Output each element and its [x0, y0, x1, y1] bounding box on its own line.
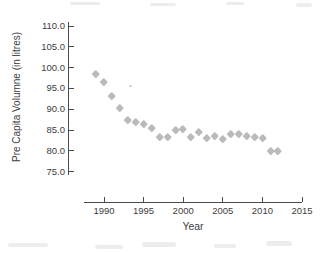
data-point-2000 [179, 125, 187, 133]
data-point-1996 [148, 124, 156, 132]
scatter-plot-figure: 110.0105.0100.095.090.085.080.075.0 1990… [0, 0, 327, 253]
scan-speck [129, 85, 132, 87]
x-tick-label: 1990 [86, 206, 122, 216]
x-tick-mark [104, 197, 105, 202]
x-tick-mark [222, 197, 223, 202]
scan-artifact [266, 241, 292, 246]
x-tick-mark [183, 197, 184, 202]
x-tick-label: 2010 [244, 206, 280, 216]
y-tick-label: 100.0 [28, 63, 65, 73]
y-tick-label: 105.0 [28, 42, 65, 52]
data-point-1993 [124, 116, 132, 124]
y-axis-line [68, 22, 69, 175]
x-tick-mark [262, 197, 263, 202]
x-tick-label: 2015 [284, 206, 320, 216]
y-tick-label: 95.0 [28, 83, 65, 93]
data-point-2001 [187, 133, 195, 141]
data-point-1992 [116, 104, 124, 112]
data-point-1990 [100, 78, 108, 86]
y-tick-mark [69, 26, 74, 27]
x-axis-title: Year [158, 220, 228, 232]
scan-artifact [95, 245, 123, 249]
x-tick-label: 1995 [126, 206, 162, 216]
data-point-2010 [259, 134, 267, 142]
data-point-2005 [219, 135, 227, 143]
data-point-1995 [140, 120, 148, 128]
data-point-2007 [235, 129, 243, 137]
scan-artifact [296, 3, 312, 7]
scan-artifact [8, 243, 48, 247]
data-point-2012 [274, 147, 282, 155]
data-point-2009 [251, 133, 259, 141]
x-tick-label: 2005 [205, 206, 241, 216]
y-tick-mark [69, 67, 74, 68]
y-tick-mark [69, 130, 74, 131]
y-tick-label: 75.0 [28, 167, 65, 177]
scan-artifact [214, 244, 236, 248]
y-tick-mark [69, 88, 74, 89]
y-axis-title: Pre Capita Volumne (in litres) [11, 32, 22, 162]
scan-artifact [226, 2, 244, 5]
data-point-2002 [195, 128, 203, 136]
data-point-1999 [171, 126, 179, 134]
data-point-1998 [163, 133, 171, 141]
x-tick-label: 2000 [165, 206, 201, 216]
scan-artifact [150, 3, 176, 6]
x-tick-mark [143, 197, 144, 202]
data-point-1989 [92, 70, 100, 78]
data-point-1997 [156, 133, 164, 141]
x-tick-mark [302, 197, 303, 202]
data-point-2003 [203, 134, 211, 142]
y-tick-label: 85.0 [28, 125, 65, 135]
y-tick-mark [69, 150, 74, 151]
y-tick-label: 90.0 [28, 104, 65, 114]
data-point-1991 [108, 92, 116, 100]
y-tick-mark [69, 109, 74, 110]
y-tick-label: 80.0 [28, 146, 65, 156]
scan-artifact [142, 242, 176, 247]
data-point-2006 [227, 130, 235, 138]
scan-artifact [70, 2, 100, 5]
y-tick-mark [69, 46, 74, 47]
y-tick-mark [69, 171, 74, 172]
y-tick-label: 110.0 [28, 21, 65, 31]
x-axis-line [84, 202, 302, 203]
data-point-1994 [132, 118, 140, 126]
data-point-2008 [243, 132, 251, 140]
